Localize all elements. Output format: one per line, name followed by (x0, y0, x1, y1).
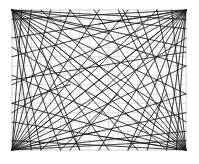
ray-top-right (176, 10, 186, 150)
ray-top-left (12, 10, 138, 150)
string-art-diagram (0, 0, 199, 164)
ray-bottom-left (12, 10, 157, 150)
ray-bottom-right (157, 10, 186, 150)
